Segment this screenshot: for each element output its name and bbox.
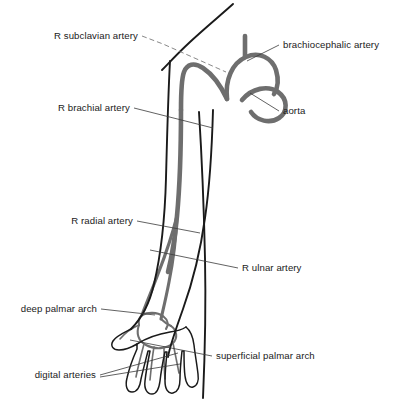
- neck-shoulder-outline: [162, 4, 233, 70]
- thumb-branch: [120, 325, 139, 339]
- subclavian-to-brachial: [181, 65, 227, 110]
- digital-artery-2: [150, 347, 154, 380]
- label-r-brachial-artery: R brachial artery: [58, 102, 130, 113]
- wrist-outline: [137, 327, 186, 344]
- digital-artery-4: [173, 343, 179, 373]
- label-superficial-palmar-arch: superficial palmar arch: [216, 350, 315, 361]
- leader-r-radial-artery: [137, 221, 200, 233]
- label-layer: R subclavian arterybrachiocephalic arter…: [21, 30, 379, 380]
- leader-digital-arteries-2: [100, 364, 180, 377]
- label-brachiocephalic-artery: brachiocephalic artery: [283, 39, 379, 50]
- label-digital-arteries: digital arteries: [35, 369, 96, 380]
- arterial-diagram-figure: R subclavian arterybrachiocephalic arter…: [0, 0, 402, 406]
- arm-outline-lateral: [131, 61, 170, 329]
- torso-flank-outline: [199, 112, 205, 398]
- leader-r-brachial-artery: [134, 108, 213, 128]
- aorta-descending-hook: [242, 88, 286, 121]
- label-r-subclavian-artery: R subclavian artery: [54, 30, 138, 41]
- label-r-ulnar-artery: R ulnar artery: [242, 262, 302, 273]
- hand-outline: [112, 327, 198, 394]
- label-r-radial-artery: R radial artery: [71, 215, 133, 226]
- outline-layer: [112, 4, 233, 398]
- leader-r-subclavian-artery: [142, 36, 226, 72]
- label-aorta: aorta: [283, 105, 306, 116]
- leader-layer: [100, 36, 279, 377]
- arterial-diagram-canvas: R subclavian arterybrachiocephalic arter…: [0, 0, 402, 406]
- leader-deep-palmar-arch: [101, 309, 155, 315]
- label-deep-palmar-arch: deep palmar arch: [21, 303, 97, 314]
